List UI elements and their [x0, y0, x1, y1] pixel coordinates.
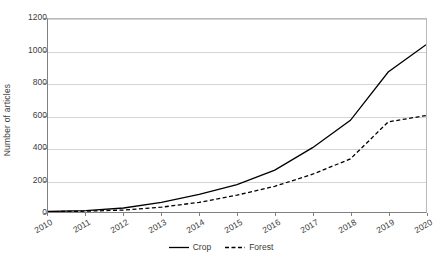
x-tick-mark-2011: [85, 213, 86, 216]
legend-label-crop: Crop: [193, 243, 211, 252]
x-tick-mark-2019: [389, 213, 390, 216]
x-tick-label-2012: 2012: [101, 217, 130, 240]
legend-key-crop-icon: [169, 244, 189, 251]
y-tick-label-1200: 1200: [7, 13, 47, 22]
series-lines: [48, 19, 426, 212]
y-tick-label-200: 200: [7, 176, 47, 185]
x-tick-label-2019: 2019: [367, 217, 396, 240]
x-tick-mark-2012: [123, 213, 124, 216]
x-tick-label-2010: 2010: [25, 217, 54, 240]
x-tick-label-2016: 2016: [253, 217, 282, 240]
y-tick-label-600: 600: [7, 111, 47, 120]
x-tick-label-2017: 2017: [291, 217, 320, 240]
x-tick-mark-2018: [351, 213, 352, 216]
y-tick-label-1000: 1000: [7, 46, 47, 55]
legend-item-crop[interactable]: Crop: [169, 243, 211, 252]
plot-area: [47, 18, 427, 213]
line-chart: Number of articles 020040060080010001200…: [0, 0, 442, 263]
x-tick-mark-2017: [313, 213, 314, 216]
x-tick-mark-2013: [161, 213, 162, 216]
x-tick-label-2014: 2014: [177, 217, 206, 240]
x-tick-label-2018: 2018: [329, 217, 358, 240]
legend-item-forest[interactable]: Forest: [225, 243, 273, 252]
y-tick-label-800: 800: [7, 78, 47, 87]
legend-label-forest: Forest: [249, 243, 273, 252]
x-tick-mark-2015: [237, 213, 238, 216]
y-tick-label-400: 400: [7, 143, 47, 152]
y-tick-label-0: 0: [7, 208, 47, 217]
x-tick-label-2020: 2020: [405, 217, 434, 240]
x-tick-mark-2020: [427, 213, 428, 216]
x-tick-label-2011: 2011: [63, 217, 92, 240]
series-line-forest: [48, 116, 426, 212]
x-tick-label-2015: 2015: [215, 217, 244, 240]
legend-key-forest-icon: [225, 244, 245, 251]
x-tick-mark-2010: [47, 213, 48, 216]
chart-legend: CropForest: [0, 243, 442, 252]
series-line-crop: [48, 45, 426, 212]
x-tick-mark-2014: [199, 213, 200, 216]
x-tick-mark-2016: [275, 213, 276, 216]
x-tick-label-2013: 2013: [139, 217, 168, 240]
